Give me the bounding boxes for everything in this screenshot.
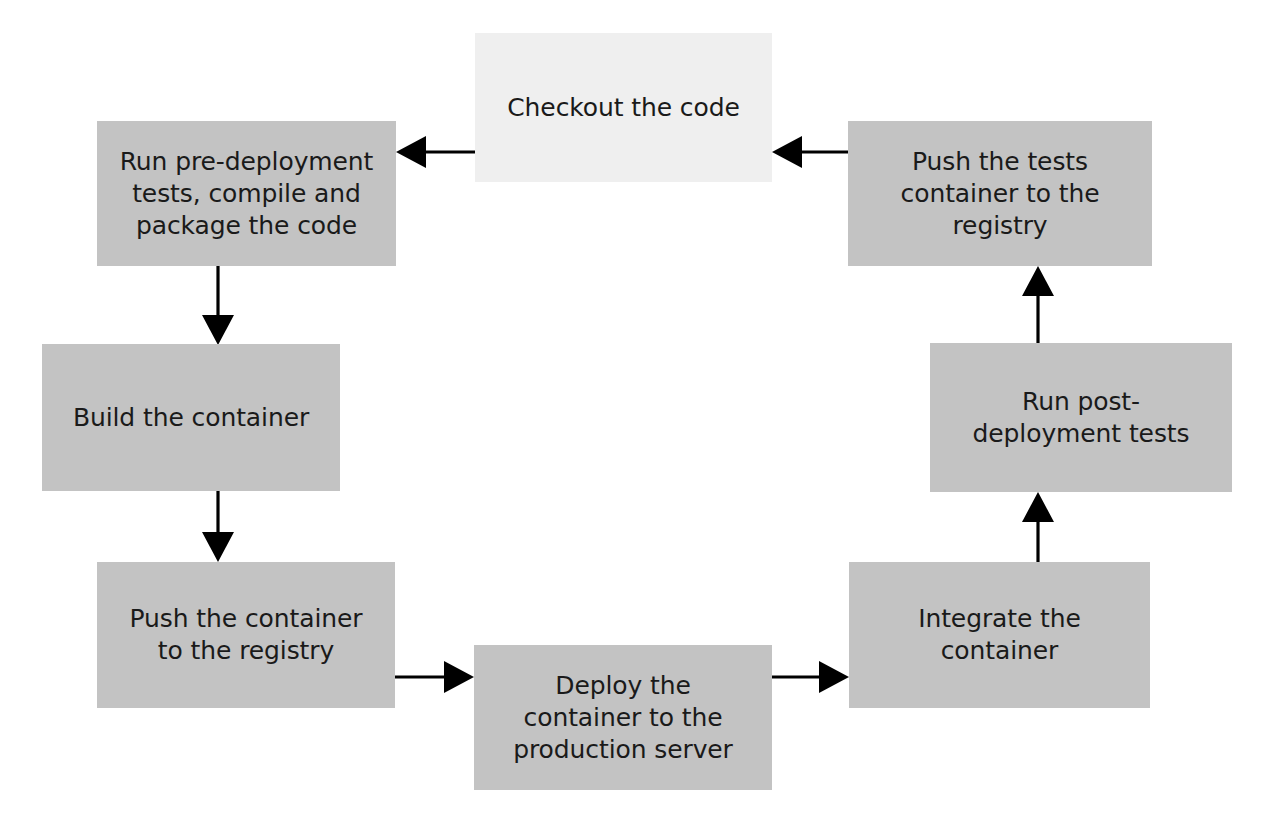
node-label: Checkout the code	[485, 92, 762, 124]
node-label: Run post- deployment tests	[940, 386, 1222, 450]
node-label: Deploy the container to the production s…	[484, 670, 762, 766]
edge-post-deployment-to-push-tests	[1022, 266, 1054, 343]
node-integrate-the-container[interactable]: Integrate the container	[849, 562, 1150, 708]
edge-checkout-to-pre-deployment	[396, 136, 475, 168]
flowchart-canvas: Checkout the code Run pre-deployment tes…	[0, 0, 1268, 826]
node-label: Run pre-deployment tests, compile and pa…	[107, 146, 386, 242]
edge-push-tests-to-checkout	[772, 136, 848, 168]
node-label: Push the container to the registry	[107, 603, 385, 667]
node-run-pre-deployment-tests[interactable]: Run pre-deployment tests, compile and pa…	[97, 121, 396, 266]
edge-integrate-to-post-deployment	[1022, 492, 1054, 562]
node-run-post-deployment-tests[interactable]: Run post- deployment tests	[930, 343, 1232, 492]
edge-push-container-to-deploy	[395, 661, 474, 693]
edge-build-to-push-container	[202, 491, 234, 562]
node-deploy-the-container-to-the-production-server[interactable]: Deploy the container to the production s…	[474, 645, 772, 790]
node-push-the-container-to-the-registry[interactable]: Push the container to the registry	[97, 562, 395, 708]
edge-pre-deployment-to-build	[202, 266, 234, 345]
node-push-the-tests-container-to-the-registry[interactable]: Push the tests container to the registry	[848, 121, 1152, 266]
node-build-the-container[interactable]: Build the container	[42, 344, 340, 491]
node-label: Build the container	[52, 402, 330, 434]
node-label: Integrate the container	[859, 603, 1140, 667]
node-label: Push the tests container to the registry	[858, 146, 1142, 242]
node-checkout-the-code[interactable]: Checkout the code	[475, 33, 772, 182]
edge-deploy-to-integrate	[772, 661, 849, 693]
